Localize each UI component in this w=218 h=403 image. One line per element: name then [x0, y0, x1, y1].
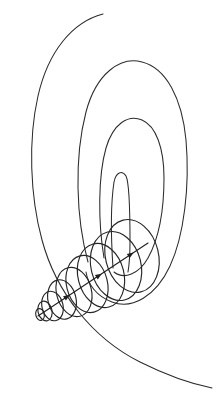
- axis-arrowhead-1: [63, 295, 70, 301]
- figure-canvas: [0, 0, 218, 403]
- axis-arrowhead-3: [127, 253, 134, 259]
- third-contour: [100, 118, 164, 275]
- axis-arrowhead-2: [95, 274, 102, 280]
- second-contour: [78, 61, 187, 304]
- spiral-turn-8: [83, 226, 148, 306]
- spiral-axis-arrow: [38, 243, 148, 316]
- spiral-contour-diagram: [0, 0, 218, 403]
- contour-curve-group: [32, 14, 212, 388]
- outer-contour: [32, 14, 212, 388]
